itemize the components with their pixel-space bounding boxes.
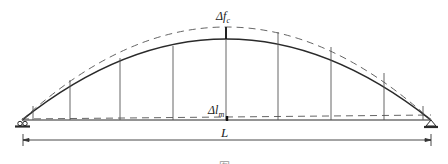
label-span-change-sub: m bbox=[218, 110, 224, 119]
left-support-icon bbox=[15, 121, 30, 126]
label-rise-change: Δfc bbox=[216, 10, 230, 25]
label-span-change: Δlm bbox=[208, 104, 224, 119]
figure-caption: 图 bbox=[0, 158, 448, 164]
label-span-change-symbol: Δl bbox=[208, 103, 218, 117]
label-rise-change-symbol: Δf bbox=[216, 9, 226, 23]
label-rise-change-sub: c bbox=[226, 16, 230, 25]
right-support-icon bbox=[424, 120, 438, 127]
arch-curve bbox=[22, 39, 431, 120]
deformed-arch-dashed bbox=[22, 27, 431, 120]
label-span: L bbox=[221, 126, 228, 139]
